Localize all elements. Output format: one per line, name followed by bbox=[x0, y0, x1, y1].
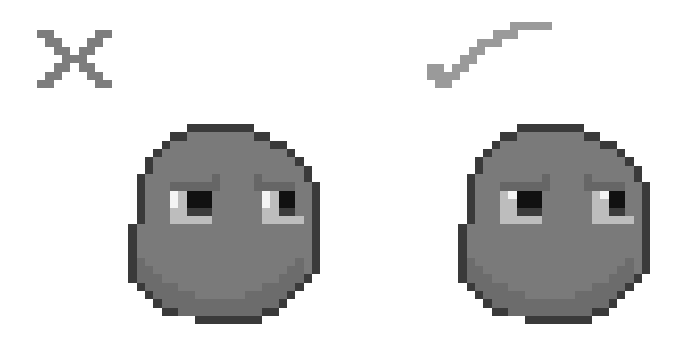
checkmark-icon bbox=[427, 22, 552, 88]
pixel-face-right bbox=[450, 124, 650, 324]
cross-icon-label: incorrect bbox=[0, 0, 1, 1]
comparison-scene: incorrect correct face with tall eye hig… bbox=[0, 0, 694, 364]
pixel-face-left bbox=[120, 124, 320, 324]
cross-icon bbox=[37, 30, 112, 88]
pixel-face-right-label: face with small eye highlight bbox=[0, 0, 1, 1]
pixel-face-left-label: face with tall eye highlight bbox=[0, 0, 1, 1]
checkmark-icon-label: correct bbox=[0, 0, 1, 1]
